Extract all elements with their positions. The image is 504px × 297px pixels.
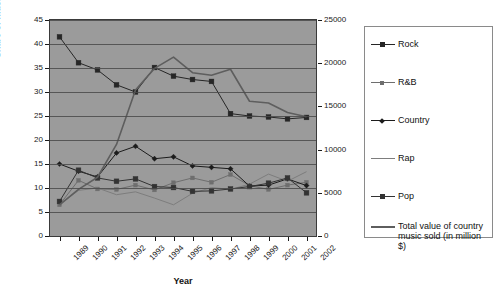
- x-tick: [288, 237, 289, 241]
- legend-label: Total value of country music sold (in mi…: [398, 221, 491, 251]
- y-tick-right: [318, 236, 322, 237]
- x-tick: [193, 237, 194, 241]
- x-tick-label: 2000: [281, 244, 299, 262]
- y-tick-left: [45, 44, 49, 45]
- y-tick-left: [45, 140, 49, 141]
- legend-swatch-icon: [371, 192, 395, 202]
- gridline: [50, 20, 316, 21]
- x-tick: [250, 237, 251, 241]
- y-tick-left: [45, 164, 49, 165]
- gridline: [50, 116, 316, 117]
- x-tick: [231, 237, 232, 241]
- gridline: [50, 188, 316, 189]
- x-tick: [307, 237, 308, 241]
- x-tick: [155, 237, 156, 241]
- gridline: [50, 92, 316, 93]
- y-tick-label-left: 10: [34, 184, 43, 192]
- y-tick-right: [318, 193, 322, 194]
- y-tick-label-right: 15000: [324, 102, 346, 110]
- y-tick-label-left: 0: [39, 232, 43, 240]
- legend-item-pop[interactable]: Pop: [371, 191, 491, 202]
- y-tick-label-left: 20: [34, 136, 43, 144]
- x-tick-label: 1991: [110, 244, 128, 262]
- y-tick-label-left: 35: [34, 64, 43, 72]
- y-tick-right: [318, 106, 322, 107]
- x-tick: [136, 237, 137, 241]
- x-tick: [212, 237, 213, 241]
- legend-item-rap[interactable]: Rap: [371, 153, 491, 164]
- legend-label: Rock: [398, 39, 419, 49]
- x-tick-label: 1997: [224, 244, 242, 262]
- chart-legend: RockR&BCountryRapPopTotal value of count…: [364, 26, 493, 238]
- x-tick-label: 2002: [319, 244, 337, 262]
- legend-label: Country: [398, 115, 430, 125]
- legend-label: Pop: [398, 191, 414, 201]
- legend-swatch-icon: [371, 40, 395, 50]
- x-tick-label: 1994: [167, 244, 185, 262]
- x-tick-label: 1990: [91, 244, 109, 262]
- y-tick-right: [318, 20, 322, 21]
- gridlines: [50, 20, 316, 236]
- x-axis: 1989199019911992199319941995199619971998…: [49, 237, 317, 238]
- y-axis-title-left: Share of music sold (%): [0, 0, 2, 58]
- legend-item-total[interactable]: Total value of country music sold (in mi…: [371, 221, 491, 251]
- y-tick-label-right: 10000: [324, 146, 346, 154]
- x-tick-label: 1992: [129, 244, 147, 262]
- plot-area: [49, 19, 317, 237]
- gridline: [50, 212, 316, 213]
- x-tick-label: 1995: [186, 244, 204, 262]
- y-tick-label-right: 25000: [324, 16, 346, 24]
- x-tick-label: 2001: [300, 244, 318, 262]
- legend-swatch-icon: [371, 222, 395, 232]
- gridline: [50, 44, 316, 45]
- y-axis-right: 0500010000150002000025000: [317, 19, 318, 237]
- x-tick: [60, 237, 61, 241]
- x-tick: [117, 237, 118, 241]
- x-tick: [174, 237, 175, 241]
- y-tick-left: [45, 188, 49, 189]
- legend-swatch-icon: [371, 154, 395, 164]
- y-tick-left: [45, 116, 49, 117]
- x-tick-label: 1993: [148, 244, 166, 262]
- legend-item-r&b[interactable]: R&B: [371, 77, 491, 88]
- y-tick-label-left: 30: [34, 88, 43, 96]
- y-tick-label-left: 25: [34, 112, 43, 120]
- x-tick: [79, 237, 80, 241]
- y-tick-label-right: 0: [324, 232, 328, 240]
- legend-swatch-icon: [371, 116, 395, 126]
- gridline: [50, 164, 316, 165]
- x-axis-title: Year: [49, 276, 317, 286]
- y-tick-label-left: 40: [34, 40, 43, 48]
- y-tick-left: [45, 92, 49, 93]
- y-tick-right: [318, 150, 322, 151]
- y-tick-right: [318, 63, 322, 64]
- legend-label: Rap: [398, 153, 415, 163]
- legend-item-country[interactable]: Country: [371, 115, 491, 126]
- y-axis-left: 051015202530354045: [49, 19, 50, 237]
- x-tick-label: 1996: [205, 244, 223, 262]
- x-tick: [269, 237, 270, 241]
- legend-swatch-icon: [371, 78, 395, 88]
- y-tick-label-left: 45: [34, 16, 43, 24]
- y-tick-label-left: 5: [39, 208, 43, 216]
- chart-root: Share of music sold (%) 0510152025303540…: [0, 0, 504, 297]
- y-tick-label-right: 5000: [324, 189, 342, 197]
- y-tick-label-left: 15: [34, 160, 43, 168]
- gridline: [50, 68, 316, 69]
- x-tick-label: 1998: [243, 244, 261, 262]
- y-tick-label-right: 20000: [324, 59, 346, 67]
- legend-label: R&B: [398, 77, 417, 87]
- x-tick-label: 1999: [262, 244, 280, 262]
- gridline: [50, 140, 316, 141]
- y-tick-left: [45, 68, 49, 69]
- x-tick: [98, 237, 99, 241]
- y-tick-left: [45, 212, 49, 213]
- y-tick-left: [45, 20, 49, 21]
- legend-item-rock[interactable]: Rock: [371, 39, 491, 50]
- x-tick-label: 1989: [72, 244, 90, 262]
